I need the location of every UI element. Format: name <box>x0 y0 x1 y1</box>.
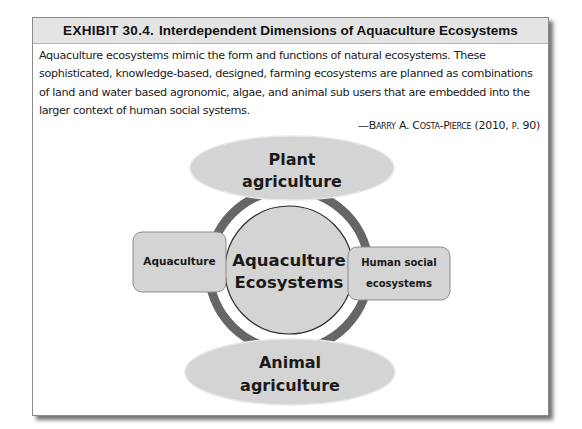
plant-label-line1: Plant <box>268 150 315 169</box>
node-animal-agriculture: Animal agriculture <box>185 339 395 405</box>
human-social-label-line1: Human social <box>361 257 437 268</box>
node-human-social-ecosystems: Human social ecosystems <box>348 247 450 300</box>
center-label-line1: Aquaculture <box>232 251 346 270</box>
center-circle <box>225 206 353 334</box>
node-plant-agriculture: Plant agriculture <box>190 136 394 200</box>
node-aquaculture: Aquaculture <box>133 232 226 292</box>
plant-label-line2: agriculture <box>242 172 342 191</box>
animal-label-line2: agriculture <box>240 376 340 395</box>
human-social-label-line2: ecosystems <box>366 278 432 289</box>
animal-label-line1: Animal <box>259 353 321 372</box>
ecosystem-diagram: Aquaculture Ecosystems Plant agriculture… <box>0 0 582 429</box>
aquaculture-label: Aquaculture <box>143 255 215 267</box>
center-label-line2: Ecosystems <box>235 273 344 292</box>
